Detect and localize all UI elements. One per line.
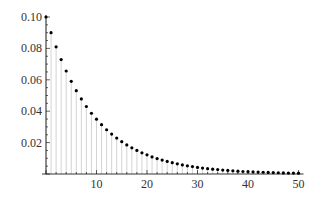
- data-point: [181, 163, 184, 166]
- data-point: [55, 45, 58, 48]
- data-point: [236, 170, 239, 173]
- data-point: [186, 164, 189, 167]
- stem-lines: [46, 17, 299, 174]
- data-point: [201, 166, 204, 169]
- data-point: [211, 168, 214, 171]
- tick-labels: 10203040500.020.040.060.080.10: [21, 10, 305, 191]
- data-point: [75, 89, 78, 92]
- data-point: [156, 157, 159, 160]
- data-point: [267, 171, 270, 174]
- data-points: [44, 15, 300, 174]
- data-point: [231, 169, 234, 172]
- data-point: [282, 171, 285, 174]
- data-point: [262, 171, 265, 174]
- y-tick-label: 0.08: [21, 41, 42, 55]
- y-tick-label: 0.02: [21, 136, 42, 150]
- y-tick-label: 0.10: [21, 10, 42, 24]
- x-tick-label: 10: [91, 177, 103, 191]
- x-tick-label: 30: [192, 177, 204, 191]
- data-point: [176, 162, 179, 165]
- data-point: [171, 161, 174, 164]
- data-point: [49, 31, 52, 34]
- data-point: [80, 97, 83, 100]
- y-tick-label: 0.04: [21, 104, 42, 118]
- data-point: [241, 170, 244, 173]
- data-point: [196, 166, 199, 169]
- data-point: [120, 140, 123, 143]
- data-point: [166, 160, 169, 163]
- data-point: [135, 149, 138, 152]
- data-point: [110, 133, 113, 136]
- data-point: [292, 171, 295, 174]
- data-point: [161, 158, 164, 161]
- x-tick-label: 40: [242, 177, 254, 191]
- data-point: [140, 151, 143, 154]
- data-point: [226, 169, 229, 172]
- data-point: [44, 15, 47, 18]
- data-point: [85, 105, 88, 108]
- data-point: [191, 165, 194, 168]
- data-point: [251, 170, 254, 173]
- data-point: [125, 143, 128, 146]
- chart: 10203040500.020.040.060.080.10: [0, 0, 317, 203]
- data-point: [95, 118, 98, 121]
- data-point: [246, 170, 249, 173]
- data-point: [90, 112, 93, 115]
- data-point: [60, 58, 63, 61]
- data-point: [105, 128, 108, 131]
- data-point: [287, 171, 290, 174]
- data-point: [70, 80, 73, 83]
- x-tick-label: 50: [293, 177, 305, 191]
- data-point: [150, 155, 153, 158]
- data-point: [115, 136, 118, 139]
- data-point: [277, 171, 280, 174]
- data-point: [206, 167, 209, 170]
- data-point: [65, 69, 68, 72]
- data-point: [145, 153, 148, 156]
- data-point: [297, 172, 300, 175]
- x-tick-label: 20: [141, 177, 153, 191]
- data-point: [257, 171, 260, 174]
- data-point: [130, 146, 133, 149]
- data-point: [221, 168, 224, 171]
- data-point: [216, 168, 219, 171]
- y-tick-label: 0.06: [21, 73, 42, 87]
- data-point: [272, 171, 275, 174]
- data-point: [100, 123, 103, 126]
